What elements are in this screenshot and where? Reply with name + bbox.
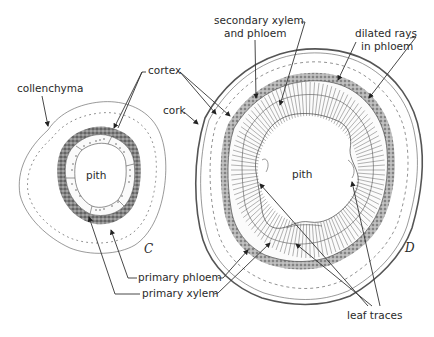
label-primary-phloem: primary phloem xyxy=(138,271,222,283)
label-secondary-xylem-line2: and phloem xyxy=(224,27,286,39)
stem-d-pith-label: pith xyxy=(292,168,312,180)
stem-c: pith C xyxy=(19,102,166,256)
label-secondary-xylem-line1: secondary xylem xyxy=(214,14,304,26)
stem-c-panel-letter: C xyxy=(144,242,153,256)
label-leaf-traces: leaf traces xyxy=(347,309,402,321)
stem-d-panel-letter: D xyxy=(404,241,415,255)
stem-d: pith D xyxy=(196,49,423,305)
label-cork: cork xyxy=(163,104,187,116)
label-dilated-rays-line1: dilated rays xyxy=(355,27,417,39)
label-primary-xylem: primary xylem xyxy=(142,287,218,299)
label-cortex: cortex xyxy=(148,64,181,76)
stem-cross-section-figure: pith C pith D collenchyma cortex cork se… xyxy=(0,0,434,337)
stem-c-pith-label: pith xyxy=(86,169,106,181)
label-collenchyma: collenchyma xyxy=(17,82,83,94)
